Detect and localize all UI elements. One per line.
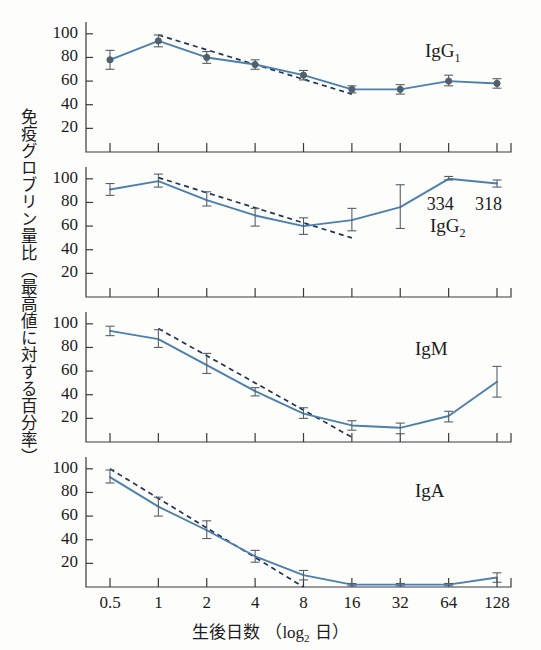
y-tick-label: 60 xyxy=(34,505,78,525)
x-tick-label: 128 xyxy=(469,593,525,613)
series-label-subscript: 2 xyxy=(460,226,466,240)
y-tick-label: 20 xyxy=(34,117,78,137)
data-point-marker xyxy=(300,72,306,78)
data-point-marker xyxy=(155,38,161,44)
series-label-text: IgA xyxy=(415,480,445,501)
x-axis-title-pre: 生後日数 （ xyxy=(192,622,282,642)
y-tick-label: 40 xyxy=(34,384,78,404)
y-tick-label: 20 xyxy=(34,407,78,427)
panel-iga xyxy=(86,457,511,587)
series-label-subscript: 1 xyxy=(455,51,461,65)
data-point-marker xyxy=(349,86,355,92)
panel-frame xyxy=(86,312,511,442)
y-tick-label: 80 xyxy=(34,46,78,66)
data-point-marker xyxy=(446,78,452,84)
y-tick-label: 60 xyxy=(34,70,78,90)
chart-plot-area xyxy=(0,0,541,650)
data-point-marker xyxy=(252,61,258,67)
y-tick-label: 20 xyxy=(34,552,78,572)
data-point-marker xyxy=(397,86,403,92)
y-tick-label: 60 xyxy=(34,360,78,380)
series-label-text: IgM xyxy=(415,338,448,359)
panel-series-label-iga: IgA xyxy=(415,480,445,502)
panel-series-label-igm: IgM xyxy=(415,338,448,360)
panel-igm xyxy=(86,312,511,442)
x-axis-title-log: log xyxy=(282,623,304,642)
series-label-text: IgG xyxy=(430,215,460,236)
value-annotation-334: 334 xyxy=(427,194,454,215)
y-tick-label: 60 xyxy=(34,215,78,235)
y-tick-label: 40 xyxy=(34,239,78,259)
trend-line-dashed xyxy=(158,178,352,238)
x-axis-title: 生後日数 （log2 日） xyxy=(0,618,541,644)
data-point-marker xyxy=(107,57,113,63)
y-axis-title: 免疫グロブリン量比（最高値に対する百分率） xyxy=(6,108,36,465)
panel-series-label-igg2: IgG2 xyxy=(430,215,466,241)
immunoglobulin-ratio-figure: 免疫グロブリン量比（最高値に対する百分率） 生後日数 （log2 日） 2040… xyxy=(0,0,541,650)
data-point-marker xyxy=(494,80,500,86)
y-tick-label: 40 xyxy=(34,94,78,114)
series-label-text: IgG xyxy=(425,40,455,61)
y-tick-label: 100 xyxy=(34,458,78,478)
y-tick-label: 80 xyxy=(34,191,78,211)
y-tick-label: 80 xyxy=(34,481,78,501)
data-point-marker xyxy=(204,54,210,60)
value-annotation-318: 318 xyxy=(475,194,502,215)
panel-series-label-igg1: IgG1 xyxy=(425,40,461,66)
y-tick-label: 100 xyxy=(34,313,78,333)
panel-frame xyxy=(86,457,511,587)
y-tick-label: 80 xyxy=(34,336,78,356)
y-tick-label: 20 xyxy=(34,262,78,282)
y-tick-label: 40 xyxy=(34,529,78,549)
y-tick-label: 100 xyxy=(34,23,78,43)
y-tick-label: 100 xyxy=(34,168,78,188)
trend-line-dashed xyxy=(158,329,352,438)
x-axis-title-post: 日） xyxy=(310,622,349,642)
